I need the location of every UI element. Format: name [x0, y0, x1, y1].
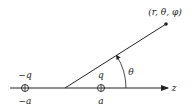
position-negative-label: −a [19, 96, 32, 106]
charge-negative-label: −q [18, 70, 32, 80]
theta-arc [117, 56, 127, 89]
field-point-dot [164, 22, 168, 26]
point-label: (r, θ, φ) [148, 7, 182, 17]
position-positive-label: a [98, 96, 103, 106]
charge-positive-label: q [98, 70, 104, 80]
angle-label: θ [128, 67, 134, 77]
radius-ray [65, 24, 166, 88]
axis-label: z [171, 83, 177, 93]
dipole-diagram: (r, θ, φ) θ z −q −a q a [0, 0, 192, 110]
